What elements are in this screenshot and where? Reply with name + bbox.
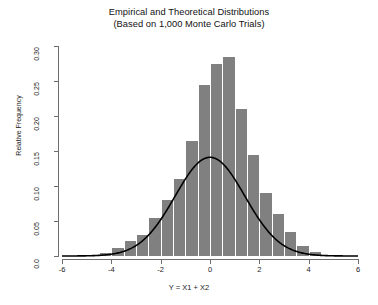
x-tick-label: 0 xyxy=(195,265,225,274)
y-tick-label: 0.05 xyxy=(24,217,50,225)
x-tick-mark xyxy=(309,260,310,264)
y-tick-label: 0.30 xyxy=(24,42,50,50)
x-tick-label: -2 xyxy=(146,265,176,274)
y-tick-mark xyxy=(54,81,58,82)
y-tick-label: 0.10 xyxy=(24,182,50,190)
y-axis-title: Relative Frequency xyxy=(15,86,22,166)
x-tick-mark xyxy=(210,260,211,264)
plot-area xyxy=(62,46,358,256)
x-tick-label: -6 xyxy=(47,265,77,274)
chart-figure: Empirical and Theoretical Distributions … xyxy=(0,0,378,305)
y-tick-label: 0.0 xyxy=(24,252,50,260)
y-tick-mark xyxy=(54,256,58,257)
y-tick-label: 0.25 xyxy=(24,77,50,85)
y-tick-mark xyxy=(54,46,58,47)
x-tick-mark xyxy=(111,260,112,264)
y-tick-mark xyxy=(54,151,58,152)
chart-title-line-1: Empirical and Theoretical Distributions xyxy=(0,6,378,18)
y-tick-label: 0.20 xyxy=(24,112,50,120)
y-tick-mark xyxy=(54,116,58,117)
x-tick-label: 6 xyxy=(343,265,373,274)
x-axis-title: Y = X1 + X2 xyxy=(0,283,378,292)
x-tick-mark xyxy=(62,260,63,264)
x-tick-label: 2 xyxy=(244,265,274,274)
y-tick-mark xyxy=(54,221,58,222)
x-tick-label: 4 xyxy=(294,265,324,274)
x-tick-mark xyxy=(358,260,359,264)
chart-title-line-2: (Based on 1,000 Monte Carlo Trials) xyxy=(0,18,378,30)
theoretical-normal-curve xyxy=(62,46,358,256)
y-tick-mark xyxy=(54,186,58,187)
y-tick-label: 0.15 xyxy=(24,147,50,155)
chart-title: Empirical and Theoretical Distributions … xyxy=(0,6,378,30)
x-tick-label: -4 xyxy=(96,265,126,274)
x-tick-mark xyxy=(161,260,162,264)
y-axis-line xyxy=(58,46,59,257)
x-tick-mark xyxy=(259,260,260,264)
